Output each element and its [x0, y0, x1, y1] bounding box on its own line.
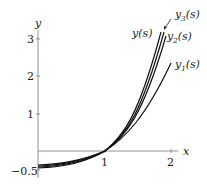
curve-y1 — [38, 63, 171, 168]
label-y1: y1(s) — [174, 58, 200, 73]
y-axis-label: y — [34, 17, 42, 30]
label-y3: y3(s) — [174, 8, 200, 23]
tick-y1: 1 — [27, 108, 34, 121]
tick-y2: 2 — [27, 70, 34, 83]
chart: 3 2 1 −0.5 1 2 y x y(s) y3(s) y2(s) y1(s… — [0, 0, 207, 188]
label-y2: y2(s) — [166, 30, 192, 45]
tick-yneg: −0.5 — [11, 165, 38, 178]
tick-x2: 2 — [167, 156, 174, 169]
tick-x1: 1 — [101, 156, 108, 169]
curve-y2 — [38, 36, 166, 167]
curve-y3 — [38, 32, 164, 166]
tick-y3: 3 — [27, 33, 34, 46]
x-axis-label: x — [183, 145, 190, 158]
label-y: y(s) — [131, 27, 152, 40]
